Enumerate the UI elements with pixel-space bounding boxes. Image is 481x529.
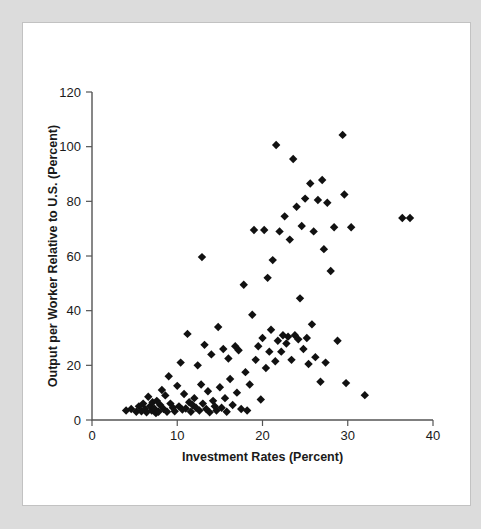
x-tick-label: 20 (255, 428, 269, 443)
data-point (272, 141, 280, 149)
data-point (342, 379, 350, 387)
data-point (333, 337, 341, 345)
data-point (219, 345, 227, 353)
data-point (275, 227, 283, 235)
data-point (282, 339, 290, 347)
data-point (251, 356, 259, 364)
data-point (309, 227, 317, 235)
y-tick-label: 120 (59, 85, 81, 100)
data-point (254, 342, 262, 350)
data-point (265, 347, 273, 355)
data-point (173, 382, 181, 390)
chart-svg: 020406080100120010203040Investment Rates… (0, 0, 481, 529)
data-point (303, 334, 311, 342)
data-point (180, 390, 188, 398)
data-point (287, 356, 295, 364)
data-point (176, 358, 184, 366)
y-tick-label: 20 (67, 358, 81, 373)
x-axis-title: Investment Rates (Percent) (182, 450, 343, 464)
data-point (257, 395, 265, 403)
data-point (301, 194, 309, 202)
data-point (306, 179, 314, 187)
axis-spine (92, 92, 433, 420)
data-point (248, 311, 256, 319)
data-point (237, 405, 245, 413)
data-point (240, 281, 248, 289)
y-tick-label: 60 (67, 249, 81, 264)
x-tick-label: 0 (88, 428, 95, 443)
data-point (228, 401, 236, 409)
x-tick-label: 10 (170, 428, 184, 443)
data-point (299, 345, 307, 353)
data-point (296, 294, 304, 302)
data-point (207, 350, 215, 358)
data-point (318, 176, 326, 184)
y-tick-label: 0 (74, 413, 81, 428)
data-point (197, 380, 205, 388)
data-point (277, 347, 285, 355)
data-point (165, 372, 173, 380)
data-point (194, 361, 202, 369)
data-point (330, 223, 338, 231)
data-point (321, 358, 329, 366)
data-point (323, 199, 331, 207)
data-point (316, 378, 324, 386)
data-point (233, 388, 241, 396)
data-point (267, 326, 275, 334)
data-point (204, 387, 212, 395)
x-tick-label: 40 (426, 428, 440, 443)
data-point (304, 360, 312, 368)
data-point (198, 253, 206, 261)
data-point (314, 196, 322, 204)
data-point (298, 222, 306, 230)
data-point (221, 394, 229, 402)
data-point (271, 357, 279, 365)
data-point (398, 214, 406, 222)
data-point (183, 330, 191, 338)
data-point-group (122, 131, 414, 418)
data-point (200, 341, 208, 349)
data-point (241, 368, 249, 376)
data-point (338, 131, 346, 139)
data-point (269, 256, 277, 264)
data-point (280, 212, 288, 220)
data-point (250, 226, 258, 234)
data-point (216, 383, 224, 391)
data-point (327, 267, 335, 275)
data-point (292, 203, 300, 211)
data-point (406, 214, 414, 222)
data-point (262, 364, 270, 372)
data-point (226, 375, 234, 383)
data-point (260, 226, 268, 234)
x-tick-label: 30 (341, 428, 355, 443)
y-tick-label: 100 (59, 139, 81, 154)
data-point (289, 155, 297, 163)
data-point (246, 380, 254, 388)
y-axis-title: Output per Worker Relative to U.S. (Perc… (46, 125, 60, 387)
data-point (224, 354, 232, 362)
data-point (286, 235, 294, 243)
data-point (311, 353, 319, 361)
y-tick-label: 40 (67, 303, 81, 318)
data-point (258, 334, 266, 342)
data-point (347, 223, 355, 231)
data-point (340, 190, 348, 198)
data-point (243, 406, 251, 414)
data-point (320, 245, 328, 253)
scatter-chart: 020406080100120010203040Investment Rates… (0, 0, 481, 529)
data-point (308, 320, 316, 328)
data-point (274, 337, 282, 345)
data-point (361, 391, 369, 399)
data-point (263, 274, 271, 282)
y-tick-label: 80 (67, 194, 81, 209)
data-point (214, 323, 222, 331)
